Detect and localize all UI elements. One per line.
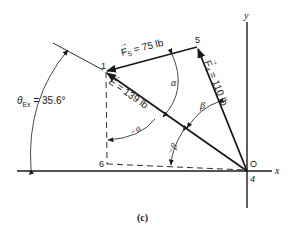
- svg-text:F4 = 110 lb: F4 = 110 lb: [201, 59, 230, 108]
- alpha-label: α: [171, 77, 177, 88]
- point-label-5: 5: [195, 35, 200, 45]
- minus-alpha-label: −α: [128, 123, 143, 138]
- point-label-4: 4: [250, 174, 255, 184]
- force-diagram: x y 1 5 6 O 4 F5 = 75 lb → F4 = 110 lb →…: [0, 0, 290, 240]
- svg-text:F5 = 75 lb: F5 = 75 lb: [120, 37, 165, 59]
- svg-text:E = 139 lb: E = 139 lb: [107, 76, 151, 111]
- label-f5: F5 = 75 lb →: [118, 30, 165, 59]
- x-axis-label: x: [274, 165, 280, 176]
- theta-angle-arc: [30, 50, 68, 169]
- point-label-6: 6: [99, 159, 104, 169]
- dashed-line-6-to-origin: [107, 164, 246, 170]
- point-label-origin: O: [250, 159, 257, 169]
- svg-text:→: →: [118, 39, 128, 50]
- figure-caption: (c): [137, 212, 148, 224]
- minus-beta-label: −β: [165, 141, 179, 156]
- e-direction-reference-line: [53, 43, 103, 70]
- beta-label: β: [199, 100, 205, 111]
- theta-ex-label: θEx = 35.6°: [17, 95, 65, 108]
- label-e: E = 139 lb →: [107, 70, 155, 111]
- point-label-1: 1: [101, 61, 106, 71]
- y-axis-label: y: [243, 10, 249, 21]
- label-f4: F4 = 110 lb →: [201, 56, 237, 108]
- dashed-line-1-to-6: [106, 72, 107, 164]
